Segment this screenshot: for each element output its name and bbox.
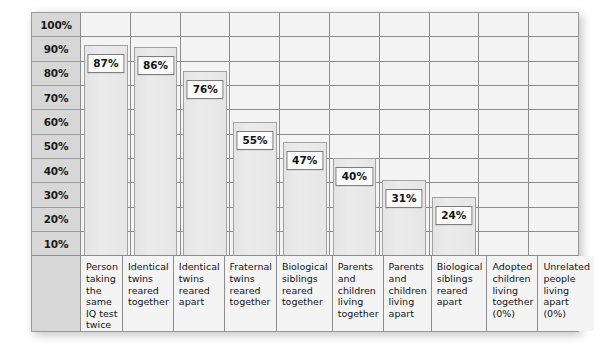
chart-screenshot: 100% 90% 80% 70% 60% 50% 40% 30% 20% 10% [0,0,609,359]
bar-slot [528,13,578,255]
bar-slot: 40% [330,13,380,255]
category-label: Biological siblings reared together [277,256,333,331]
category-axis: Person taking the same IQ test twiceIden… [32,255,578,331]
bar-slot: 76% [180,13,230,255]
bar-value-label: 31% [385,189,422,208]
bar-slot: 24% [429,13,479,255]
bar-slot: 87% [81,13,131,255]
category-label: Identical twins reared apart [174,256,225,331]
bar-value-label: 87% [87,54,124,73]
bar-slot: 86% [131,13,181,255]
bar-value-label: 24% [435,206,472,225]
plot-grid: 87%86%76%55%47%40%31%24% [81,13,578,255]
category-label: Parents and children living together [333,256,384,331]
y-axis-tick-column: 100% 90% 80% 70% 60% 50% 40% 30% 20% 10% [32,13,81,255]
y-axis-tick: 90% [32,37,80,61]
category-label: Fraternal twins reared together [225,256,277,331]
y-axis-tick: 40% [32,159,80,183]
category-label: Person taking the same IQ test twice [81,256,123,331]
category-label: Identical twins reared together [123,256,174,331]
bar-value-label: 55% [236,131,273,150]
axis-corner-cell [32,256,81,331]
bar-chart-panel: 100% 90% 80% 70% 60% 50% 40% 30% 20% 10% [31,12,579,332]
y-axis-tick: 70% [32,86,80,110]
y-axis-tick: 100% [32,13,80,37]
category-label: Unrelated people living apart (0%) [538,256,594,331]
y-axis-tick: 20% [32,208,80,232]
bars-layer: 87%86%76%55%47%40%31%24% [81,13,578,255]
bar-value-label: 40% [336,167,373,186]
y-axis-tick: 80% [32,62,80,86]
bar-slot: 47% [280,13,330,255]
y-axis-tick: 10% [32,232,80,255]
category-label: Parents and children living apart [384,256,432,331]
bar [84,45,128,256]
category-label: Adopted children living together (0%) [487,256,538,331]
category-label: Biological siblings reared apart [432,256,488,331]
category-label-row: Person taking the same IQ test twiceIden… [81,256,594,331]
bar-value-label: 47% [286,151,323,170]
y-axis-tick: 50% [32,135,80,159]
bar-slot: 55% [230,13,280,255]
bar-slot: 31% [379,13,429,255]
y-axis-tick: 60% [32,110,80,134]
bar [134,47,178,255]
bar-value-label: 76% [187,80,224,99]
y-axis-tick: 30% [32,183,80,207]
chart-plot-area: 100% 90% 80% 70% 60% 50% 40% 30% 20% 10% [32,13,578,255]
bar-slot [479,13,529,255]
bar-value-label: 86% [137,56,174,75]
